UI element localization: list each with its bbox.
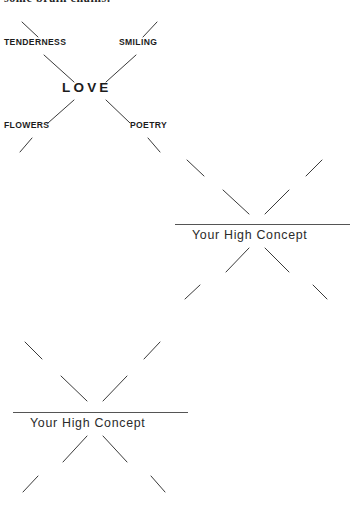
diagram-template-upper-right: Your High Concept [170,152,359,304]
spoke-line-top-right-outer [306,160,322,176]
spoke-label-tenderness: TENDERNESS [4,37,66,47]
hub-label-your-high-concept: Your High Concept [30,416,145,430]
concept-rule [175,224,350,225]
spoke-line-top-left-inner [223,190,249,214]
spoke-line-bottom-right-outer [151,476,165,492]
spoke-label-flowers: FLOWERS [4,120,49,130]
book-page: some brain chains. TENDERNESS SMILING LO… [0,0,359,505]
spoke-line-top-right-inner [265,190,289,214]
spoke-line-top-right-outer [144,342,160,359]
hub-label-love: LOVE [62,80,112,95]
spoke-line-bottom-left-inner [48,100,74,123]
hub-label-your-high-concept: Your High Concept [192,228,307,242]
diagram-love-cluster: TENDERNESS SMILING LOVE FLOWERS POETRY [0,10,200,155]
spoke-line-bottom-right-inner [106,100,130,123]
spoke-line-top-right-outer [143,22,157,37]
spoke-line-bottom-right-outer [148,138,160,152]
spoke-line-top-left-outer [25,342,42,359]
spoke-label-poetry: POETRY [130,120,167,130]
spoke-line-top-left-inner [44,55,74,82]
spoke-line-top-left-outer [187,160,204,176]
spoke-line-bottom-left-outer [20,138,32,152]
cutoff-body-text: some brain chains. [4,0,110,6]
spoke-line-bottom-left-inner [226,248,249,272]
spoke-line-top-left-outer [22,22,38,37]
spoke-line-bottom-right-outer [313,285,327,299]
spoke-line-top-right-inner [103,376,127,401]
spoke-label-smiling: SMILING [119,37,157,47]
spoke-line-bottom-left-outer [23,476,38,492]
diagram-template-lower-left: Your High Concept [8,332,197,500]
spoke-line-bottom-left-outer [185,285,200,299]
spoke-line-top-right-inner [106,55,136,82]
spoke-line-bottom-right-inner [265,248,289,272]
spoke-line-bottom-right-inner [103,436,127,462]
concept-rule [13,412,188,413]
spoke-line-top-left-inner [61,376,87,401]
spoke-line-bottom-left-inner [63,436,87,462]
